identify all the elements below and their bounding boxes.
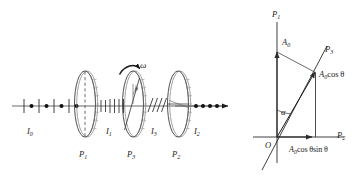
axis-label-p1: P1 <box>272 10 280 20</box>
figure-canvas: I0 I1 I3 I2 P1 P3 P2 ω θ P1 P3 P2 A0 A0c… <box>0 0 362 175</box>
rotation-label-omega: ω <box>140 61 146 70</box>
intensity-label-i1: I1 <box>106 127 112 137</box>
origin-label: O <box>265 141 271 150</box>
vector-label-a0: A0 <box>282 38 290 48</box>
angle-label-alpha: α <box>281 108 285 117</box>
intensity-label-i2: I2 <box>194 127 200 137</box>
axis-label-p2: P2 <box>337 131 345 141</box>
intensity-label-i3: I3 <box>151 127 157 137</box>
polarizer-label-p1: P1 <box>79 150 87 160</box>
vector-label-a0-cos-theta-sin-theta: A0cos θsin θ <box>289 146 328 155</box>
intensity-label-i0: I0 <box>27 127 33 137</box>
axis-label-p3: P3 <box>325 45 333 55</box>
tilted-polarization-marks <box>148 98 167 112</box>
polarizer-label-p3: P3 <box>127 150 135 160</box>
polarizer-p1 <box>75 71 100 137</box>
polarizer-label-p2: P2 <box>172 150 180 160</box>
polarizer-p2 <box>168 71 193 137</box>
vector-label-a0-cos-theta: A0cos θ <box>319 70 344 80</box>
vector-a0-cos-theta <box>277 72 315 137</box>
angle-label-theta-disk: θ <box>135 86 138 93</box>
projection-construction-line <box>277 52 316 73</box>
